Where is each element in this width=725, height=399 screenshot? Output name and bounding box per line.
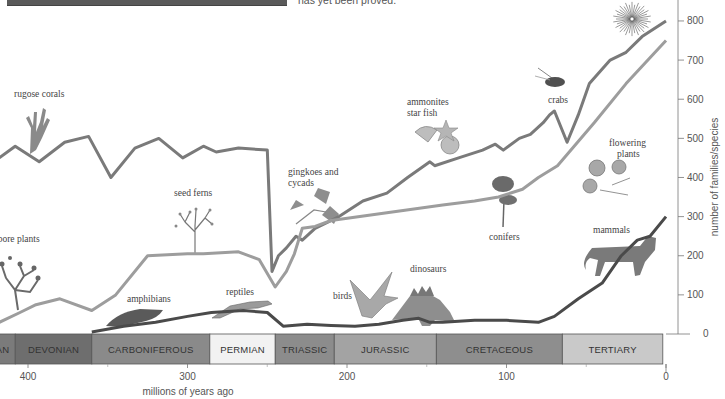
seed-fern-icon [175,208,214,255]
annotation-label: dinosaurs [410,264,447,274]
annotation-label: crabs [548,95,568,105]
sea-urchin-icon [613,2,650,36]
annotation-label: birds [333,291,352,301]
period-label: TRIASSIC [282,344,327,355]
annotation-label: mammals [593,225,630,235]
y-tick-label: 700 [687,55,704,66]
x-tick-label: 300 [179,371,196,382]
series-land-plant-species [0,41,666,323]
x-tick-label: 200 [339,371,356,382]
x-tick-label: 400 [20,371,37,382]
y-tick-label: 600 [687,94,704,105]
bird-icon [350,272,398,318]
geologic-period-bar: ANDEVONIANCARBONIFEROUSPERMIANTRIASSICJU… [0,334,663,364]
x-tick-label: 100 [498,371,515,382]
y-tick-label: 300 [687,211,704,222]
annotation-label: seed ferns [174,188,213,198]
annotation-label: reptiles [226,287,254,297]
annotation-label: conifers [489,232,520,242]
series-marine-animal-families [0,21,666,271]
x-axis-title: millions of years ago [142,386,234,397]
spore-plant-icon [0,256,41,310]
period-label: JURASSIC [361,344,410,355]
annotation-label: cycads [288,178,314,188]
annotation-label: plants [617,149,640,159]
y-tick-label: 800 [687,15,704,26]
evolution-chart: ANDEVONIANCARBONIFEROUSPERMIANTRIASSICJU… [0,0,725,399]
period-label: CRETACEOUS [466,344,533,355]
annotation-label: star fish [407,108,438,118]
y-tick-label: 0 [703,328,709,339]
period-label: DEVONIAN [28,344,79,355]
y-axis-title: number of families/species [709,118,720,236]
rugose-coral-icon [26,108,50,154]
series-land-vertebrate-families [92,217,666,332]
annotation-label: gingkoes and [288,167,339,177]
y-tick-label: 200 [687,250,704,261]
annotation-label: amphibians [127,294,171,304]
crab-icon [535,68,565,87]
flowering-plant-icon [583,160,630,195]
y-tick-label: 400 [687,172,704,183]
period-label: CARBONIFEROUS [108,344,193,355]
annotation-label: flowering [609,138,646,148]
y-tick-label: 100 [687,289,704,300]
annotation-label: ammonites [407,97,449,107]
conifer-icon [492,176,517,227]
period-label: TERTIARY [588,344,637,355]
annotation-label: rugose corals [14,89,65,99]
y-tick-label: 500 [687,133,704,144]
annotation-label: spore plants [0,234,40,244]
x-tick-label: 0 [663,371,669,382]
period-label: PERMIAN [220,344,265,355]
period-label: AN [0,344,9,355]
